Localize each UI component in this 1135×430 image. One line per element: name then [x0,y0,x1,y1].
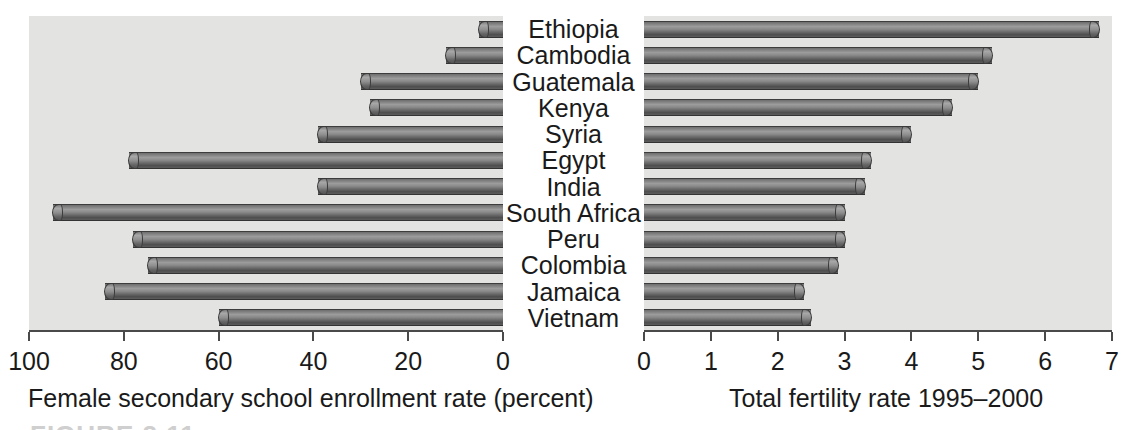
bar-enrollment-syria [318,126,503,143]
bar-end-cap [835,231,846,248]
figure-caption-fragment: FIGURE 2.11 [30,420,196,430]
bar-end-cap [982,47,993,64]
bar-end-cap [132,231,143,248]
axis-tick-label: 5 [971,347,985,376]
category-label: South Africa [503,200,644,226]
bar-end-cap [861,152,872,169]
bar-end-cap [478,21,489,38]
axis-tick-label: 6 [1038,347,1052,376]
bar-fertility-cambodia [644,47,992,64]
axis-tick [977,332,979,341]
left-chart-plot-area: 100806040200 [29,16,503,331]
category-label: Syria [503,121,644,147]
axis-tick [407,332,409,341]
category-label: India [503,174,644,200]
axis-tick [502,332,504,341]
axis-tick-label: 1 [704,347,718,376]
axis-tick [844,332,846,341]
bar-enrollment-jamaica [105,283,503,300]
bar-end-cap [128,152,139,169]
axis-tick-label: 100 [8,347,50,376]
category-label: Vietnam [503,305,644,331]
right-axis-line [644,330,1112,332]
bar-end-cap [835,204,846,221]
bar-enrollment-vietnam [219,309,503,326]
bar-end-cap [1089,21,1100,38]
bar-end-cap [801,309,812,326]
axis-tick-label: 0 [637,347,651,376]
bar-end-cap [942,99,953,116]
axis-tick [643,332,645,341]
bar-end-cap [901,126,912,143]
category-label: Colombia [503,252,644,278]
bar-enrollment-peru [133,231,503,248]
bar-end-cap [794,283,805,300]
category-label: Cambodia [503,42,644,68]
right-axis-title: Total fertility rate 1995–2000 [729,384,1043,413]
axis-tick-label: 0 [496,347,510,376]
axis-tick-label: 3 [838,347,852,376]
left-axis-title: Female secondary school enrollment rate … [28,384,594,413]
bar-end-cap [369,99,380,116]
axis-tick-label: 80 [110,347,138,376]
bar-end-cap [855,178,866,195]
bar-enrollment-colombia [148,257,504,274]
bar-fertility-guatemala [644,73,978,90]
axis-tick [28,332,30,341]
axis-tick [1111,332,1113,341]
bar-end-cap [828,257,839,274]
bar-enrollment-guatemala [361,73,503,90]
bar-end-cap [104,283,115,300]
bar-end-cap [317,126,328,143]
category-label: Kenya [503,95,644,121]
category-label: Ethiopia [503,16,644,42]
bar-end-cap [52,204,63,221]
bar-fertility-ethiopia [644,21,1099,38]
bar-end-cap [317,178,328,195]
right-chart-plot-area: 01234567 [644,16,1112,331]
axis-tick-label: 4 [904,347,918,376]
bar-enrollment-ethiopia [479,21,503,38]
left-axis-line [29,330,503,332]
bar-fertility-south-africa [644,204,845,221]
axis-tick [218,332,220,341]
bar-end-cap [147,257,158,274]
axis-tick [1044,332,1046,341]
category-label: Peru [503,226,644,252]
bar-fertility-kenya [644,99,952,116]
axis-tick-label: 60 [205,347,233,376]
axis-tick-label: 2 [771,347,785,376]
bar-enrollment-south-africa [53,204,503,221]
bar-fertility-egypt [644,152,871,169]
axis-tick [777,332,779,341]
bar-enrollment-kenya [370,99,503,116]
axis-tick [123,332,125,341]
bar-enrollment-egypt [129,152,503,169]
bar-end-cap [218,309,229,326]
axis-tick-label: 40 [299,347,327,376]
category-label: Guatemala [503,69,644,95]
bar-end-cap [360,73,371,90]
bar-enrollment-india [318,178,503,195]
bar-fertility-peru [644,231,845,248]
figure-container: 100806040200 EthiopiaCambodiaGuatemalaKe… [0,0,1135,430]
category-label: Egypt [503,147,644,173]
bar-end-cap [968,73,979,90]
axis-tick-label: 7 [1105,347,1119,376]
axis-tick [710,332,712,341]
bar-fertility-colombia [644,257,838,274]
category-label: Jamaica [503,279,644,305]
bar-fertility-india [644,178,865,195]
bar-enrollment-cambodia [446,47,503,64]
bar-fertility-syria [644,126,911,143]
bar-fertility-jamaica [644,283,804,300]
bar-fertility-vietnam [644,309,811,326]
axis-tick [910,332,912,341]
axis-tick [312,332,314,341]
bar-end-cap [445,47,456,64]
axis-tick-label: 20 [394,347,422,376]
category-labels-column: EthiopiaCambodiaGuatemalaKenyaSyriaEgypt… [503,16,644,331]
